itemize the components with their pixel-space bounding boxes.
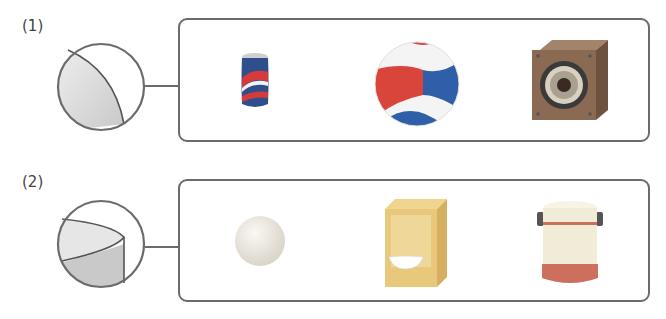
sphere-icon <box>234 215 286 267</box>
problem-2-label: (2) <box>22 173 43 191</box>
thermos-icon <box>537 200 603 286</box>
hint-circle-curved-surface-icon <box>56 42 146 132</box>
hint-circle-cylinder-edge-icon <box>56 199 146 289</box>
objects-box-2 <box>178 179 650 302</box>
speaker-icon <box>530 40 610 122</box>
cereal-box-icon <box>383 199 449 287</box>
soda-can-icon <box>239 52 271 110</box>
objects-box-1 <box>178 18 650 142</box>
connector-line-1 <box>145 85 180 87</box>
connector-line-2 <box>145 246 180 248</box>
volleyball-icon <box>373 40 461 128</box>
problem-1-label: (1) <box>22 17 43 35</box>
